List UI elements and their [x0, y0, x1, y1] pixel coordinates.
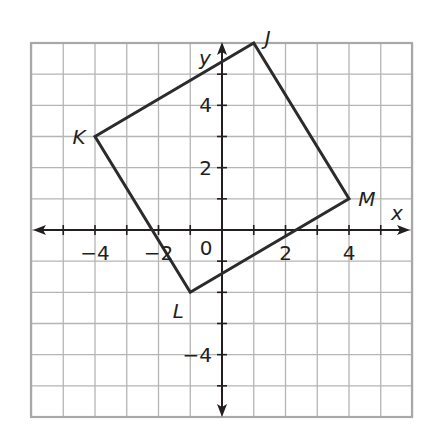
x-tick-label: 2	[279, 241, 292, 265]
vertex-label-j: J	[261, 26, 271, 50]
y-tick-label: −4	[183, 343, 212, 367]
x-tick-label: −2	[144, 241, 173, 265]
y-tick-label: 4	[199, 93, 212, 117]
x-tick-label: 4	[343, 241, 356, 265]
origin-label: 0	[200, 236, 213, 260]
vertex-label-l: L	[173, 299, 184, 323]
coordinate-plane-figure: −4−22442−40xyJMLK	[0, 0, 433, 443]
x-axis-label: x	[390, 201, 403, 225]
vertex-label-m: M	[358, 187, 375, 211]
x-tick-label: −4	[80, 241, 109, 265]
y-axis-label: y	[198, 46, 212, 70]
coordinate-plane-svg: −4−22442−40xyJMLK	[0, 0, 433, 443]
y-tick-label: 2	[199, 156, 212, 180]
axes	[33, 42, 410, 417]
labels: −4−22442−40xyJMLK	[72, 26, 403, 367]
vertex-label-k: K	[72, 125, 87, 149]
